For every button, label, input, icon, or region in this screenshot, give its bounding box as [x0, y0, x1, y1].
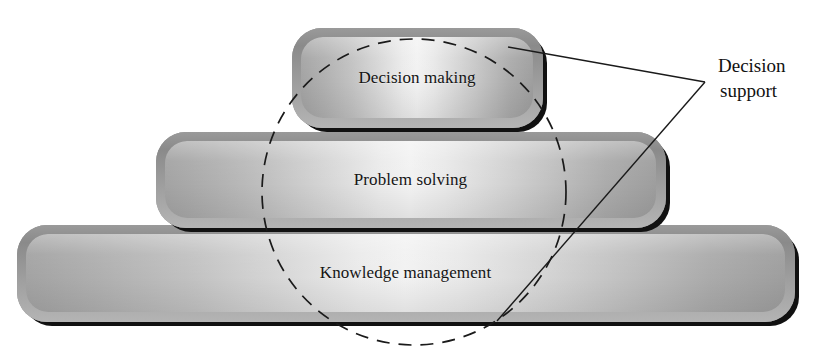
- callout-decision-support: Decision support: [718, 53, 814, 103]
- tier-problem-solving[interactable]: Problem solving: [156, 132, 666, 228]
- callout-line-2: support: [718, 78, 814, 103]
- tier-panel: Problem solving: [165, 141, 656, 218]
- tier-label-knowledge-management: Knowledge management: [320, 263, 491, 283]
- callout-line-1: Decision: [718, 53, 814, 78]
- tier-knowledge-management[interactable]: Knowledge management: [17, 225, 795, 322]
- tier-panel: Knowledge management: [26, 234, 785, 312]
- diagram-canvas: Knowledge management Problem solving Dec…: [0, 0, 816, 355]
- tier-panel: Decision making: [301, 37, 533, 118]
- tier-label-problem-solving: Problem solving: [354, 170, 467, 190]
- tier-label-decision-making: Decision making: [358, 68, 475, 88]
- tier-decision-making[interactable]: Decision making: [292, 28, 543, 128]
